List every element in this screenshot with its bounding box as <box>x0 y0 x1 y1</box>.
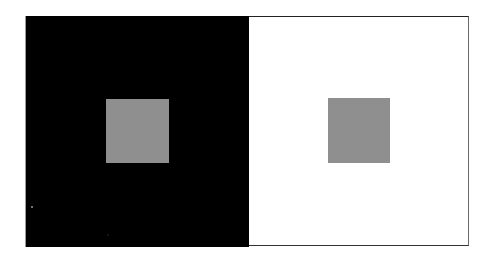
contrast-illusion-figure <box>0 0 492 262</box>
dust-speck <box>107 234 109 236</box>
dust-speck <box>31 206 33 208</box>
gray-square-on-white <box>328 98 390 163</box>
gray-square-on-black <box>106 99 169 163</box>
